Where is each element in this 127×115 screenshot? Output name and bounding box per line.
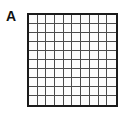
grid-cell [64, 42, 73, 51]
grid-cell [81, 78, 90, 87]
grid-cell [55, 69, 64, 78]
grid-cell [46, 42, 55, 51]
grid-cell [90, 51, 99, 60]
grid [29, 15, 116, 105]
grid-cell [99, 78, 108, 87]
grid-cell [38, 33, 47, 42]
grid-cell [29, 42, 38, 51]
grid-cell [55, 42, 64, 51]
grid-cell [72, 15, 81, 24]
grid-cell [46, 78, 55, 87]
grid-cell [46, 60, 55, 69]
grid-cell [107, 42, 116, 51]
grid-cell [107, 33, 116, 42]
grid-cell [55, 51, 64, 60]
figure-panel-a: A [0, 0, 127, 115]
grid-cell [46, 15, 55, 24]
grid-cell [99, 51, 108, 60]
grid-cell [38, 87, 47, 96]
grid-cell [29, 87, 38, 96]
grid-cell [46, 69, 55, 78]
grid-cell [64, 60, 73, 69]
grid-cell [72, 78, 81, 87]
grid-cell [99, 69, 108, 78]
grid-cell [38, 42, 47, 51]
grid-cell [29, 60, 38, 69]
grid-cell [90, 24, 99, 33]
grid-cell [107, 15, 116, 24]
grid-cell [90, 87, 99, 96]
grid-cell [55, 96, 64, 105]
grid-cell [64, 69, 73, 78]
grid-cell [64, 51, 73, 60]
grid-cell [38, 51, 47, 60]
grid-cell [90, 69, 99, 78]
grid-cell [107, 87, 116, 96]
grid-cell [72, 96, 81, 105]
grid-cell [29, 78, 38, 87]
grid-cell [29, 33, 38, 42]
grid-cell [29, 24, 38, 33]
grid-cell [99, 96, 108, 105]
grid-cell [72, 60, 81, 69]
grid-container [27, 13, 118, 107]
grid-cell [81, 24, 90, 33]
grid-cell [64, 96, 73, 105]
grid-cell [107, 78, 116, 87]
grid-cell [72, 69, 81, 78]
grid-cell [90, 96, 99, 105]
grid-cell [90, 42, 99, 51]
grid-cell [107, 69, 116, 78]
grid-cell [90, 33, 99, 42]
grid-cell [72, 24, 81, 33]
grid-cell [55, 78, 64, 87]
grid-cell [90, 15, 99, 24]
grid-cell [81, 42, 90, 51]
grid-cell [107, 96, 116, 105]
grid-cell [29, 15, 38, 24]
grid-cell [99, 60, 108, 69]
grid-cell [81, 33, 90, 42]
grid-cell [81, 15, 90, 24]
grid-cell [81, 69, 90, 78]
grid-cell [64, 33, 73, 42]
grid-cell [38, 15, 47, 24]
grid-cell [46, 87, 55, 96]
grid-cell [64, 78, 73, 87]
grid-cell [72, 33, 81, 42]
grid-cell [72, 87, 81, 96]
grid-cell [46, 33, 55, 42]
grid-cell [55, 33, 64, 42]
grid-cell [38, 24, 47, 33]
grid-cell [81, 87, 90, 96]
grid-cell [107, 60, 116, 69]
grid-cell [81, 51, 90, 60]
grid-cell [90, 60, 99, 69]
grid-cell [81, 60, 90, 69]
panel-label: A [6, 7, 22, 25]
grid-cell [64, 87, 73, 96]
grid-cell [55, 24, 64, 33]
grid-cell [38, 78, 47, 87]
grid-cell [46, 24, 55, 33]
grid-cell [55, 87, 64, 96]
grid-cell [72, 42, 81, 51]
grid-cell [99, 15, 108, 24]
grid-cell [90, 78, 99, 87]
grid-cell [99, 87, 108, 96]
grid-cell [99, 24, 108, 33]
grid-cell [38, 96, 47, 105]
grid-cell [99, 33, 108, 42]
grid-cell [46, 96, 55, 105]
grid-cell [38, 69, 47, 78]
grid-cell [46, 51, 55, 60]
grid-cell [29, 69, 38, 78]
grid-cell [107, 24, 116, 33]
grid-cell [29, 51, 38, 60]
grid-cell [99, 42, 108, 51]
grid-cell [38, 60, 47, 69]
grid-cell [81, 96, 90, 105]
grid-cell [64, 24, 73, 33]
grid-cell [55, 60, 64, 69]
grid-cell [107, 51, 116, 60]
